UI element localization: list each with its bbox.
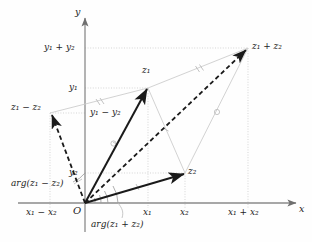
leader-arg-sum [118, 203, 123, 218]
annotation-arg-z1-plus-z2: arg(z₁ + z₂) [91, 220, 143, 229]
point-label-z1-minus-z2: z₁ − z₂ [11, 103, 41, 112]
figure-canvas: y x O z₁ z₂ z₁ + z₂ z₁ − z₂ y₁ + y₂ y₁ y… [0, 0, 312, 242]
xtick-label-x2: x₂ [180, 208, 189, 217]
y-axis-label: y [75, 7, 80, 17]
argand-diagram-svg [0, 0, 312, 242]
side-z1-to-sum [148, 48, 248, 88]
point-label-z2: z₂ [188, 167, 196, 176]
ytick-label-y1-plus-y2: y₁ + y₂ [44, 43, 75, 52]
vector-z2 [85, 174, 184, 203]
ytick-label-y1: y₁ [69, 83, 78, 92]
annotation-arg-z1-minus-z2: arg(z₁ − z₂) [11, 179, 63, 188]
side-z2-to-sum [185, 48, 248, 173]
point-label-z1: z₁ [142, 66, 150, 75]
xtick-label-x1: x₁ [143, 208, 152, 217]
x-axis-label: x [299, 204, 304, 214]
side-z2-to-z1 [148, 88, 185, 173]
vector-z1-minus-z2 [52, 115, 85, 203]
xtick-label-x1-minus-x2: x₁ − x₂ [26, 208, 57, 217]
origin-label: O [73, 206, 81, 216]
point-label-z1-plus-z2: z₁ + z₂ [252, 42, 282, 51]
ytick-label-y1-minus-y2: y₁ − y₂ [90, 108, 121, 117]
ytick-label-y2: y₂ [69, 168, 78, 177]
xtick-label-x1-plus-x2: x₁ + x₂ [228, 208, 259, 217]
